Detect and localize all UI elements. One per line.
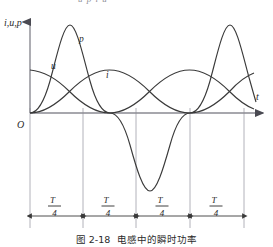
axes	[30, 22, 263, 113]
interval-1-numerator: T	[103, 195, 109, 205]
waveform-figure: i,u,p t O p u i T 4 T 4 T 4	[0, 0, 273, 247]
curve-label-i: i	[106, 70, 109, 80]
interval-2-numerator: T	[157, 195, 163, 205]
figure-number: 图 2-18	[76, 234, 111, 245]
x-axis-label: t	[256, 91, 259, 102]
interval-markers: T 4 T 4 T 4 T 4	[31, 195, 243, 218]
interval-2-denominator: 4	[160, 208, 165, 218]
interval-3-numerator: T	[211, 195, 217, 205]
interval-marker-0: T 4	[31, 195, 82, 218]
interval-3-denominator: 4	[214, 208, 219, 218]
curve-i	[30, 70, 254, 113]
interval-marker-3: T 4	[191, 195, 243, 218]
interval-marker-2: T 4	[137, 195, 189, 218]
figure-caption-text: 电感中的瞬时功率	[117, 234, 197, 245]
figure-caption: 图 2-18电感中的瞬时功率	[0, 233, 273, 247]
curve-p	[30, 25, 256, 191]
curve-u	[30, 70, 254, 113]
interval-0-denominator: 4	[52, 208, 57, 218]
interval-1-denominator: 4	[106, 208, 111, 218]
curve-label-p: p	[78, 34, 84, 44]
curve-label-u: u	[51, 61, 56, 71]
origin-label: O	[17, 119, 24, 130]
y-axis-label: i,u,p	[4, 17, 22, 28]
interval-0-numerator: T	[50, 195, 56, 205]
interval-marker-1: T 4	[84, 195, 135, 218]
